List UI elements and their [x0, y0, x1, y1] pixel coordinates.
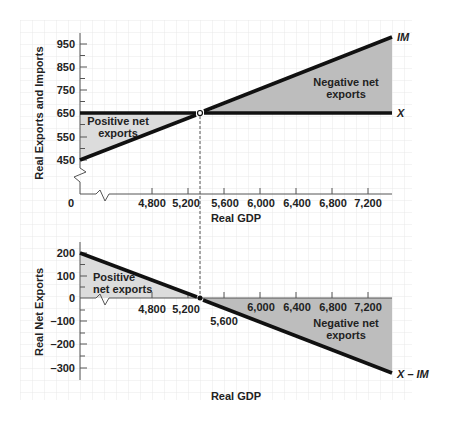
bottom-y-tick-minus200: –200 — [51, 338, 75, 350]
bottom-x-tick-5600: 5,600 — [210, 315, 238, 327]
bottom-y-axis-label: Real Net Exports — [33, 268, 45, 356]
top-x-axis-label: Real GDP — [211, 212, 261, 224]
bottom-x-tick-6400: 6,400 — [283, 301, 311, 313]
zero-crossing-point — [198, 296, 203, 301]
bottom-y-tick-0: 0 — [69, 292, 75, 304]
top-y-tick-450: 450 — [57, 154, 75, 166]
top-x-tick-5200: 5,200 — [172, 197, 200, 209]
top-y-axis-label: Real Exports and Imports — [33, 46, 45, 179]
intersection-point — [198, 111, 203, 116]
im-curve-label: IM — [397, 31, 410, 43]
positive-net-exports-label-line2: exports — [98, 127, 138, 139]
bottom-x-tick-5200: 5,200 — [172, 303, 200, 315]
top-x-tick-6800: 6,800 — [319, 197, 347, 209]
top-x-tick-6400: 6,400 — [283, 197, 311, 209]
x-minus-im-curve-label: X – IM — [396, 368, 430, 380]
top-x-tick-0: 0 — [68, 197, 74, 209]
top-y-tick-550: 550 — [57, 131, 75, 143]
bottom-y-tick-100: 100 — [57, 270, 75, 282]
x-curve-label: X — [396, 107, 405, 119]
bottom-x-tick-7200: 7,200 — [354, 301, 382, 313]
negative-net-exports-label-bottom-line2: exports — [326, 329, 366, 341]
bottom-y-tick-minus100: –100 — [51, 315, 75, 327]
negative-net-exports-label-bottom-line1: Negative net — [313, 317, 379, 329]
top-y-tick-750: 750 — [57, 84, 75, 96]
top-x-tick-6000: 6,000 — [247, 197, 275, 209]
top-y-tick-950: 950 — [57, 38, 75, 50]
positive-net-exports-label-bottom-line1: Positive — [93, 271, 135, 283]
top-y-tick-850: 850 — [57, 61, 75, 73]
bottom-x-axis-label: Real GDP — [211, 390, 261, 402]
top-x-tick-4800: 4,800 — [138, 197, 166, 209]
negative-net-exports-label-line1: Negative net — [313, 76, 379, 88]
top-x-tick-5600: 5,600 — [211, 197, 239, 209]
chart-canvas: 950 850 750 650 550 450 Real Exports and… — [0, 0, 460, 430]
positive-net-exports-label-bottom-line2: net exports — [93, 283, 152, 295]
top-y-tick-650: 650 — [57, 107, 75, 119]
negative-net-exports-label-line2: exports — [326, 88, 366, 100]
bottom-y-tick-200: 200 — [57, 247, 75, 259]
top-x-tick-7200: 7,200 — [354, 197, 382, 209]
bottom-y-tick-minus300: –300 — [51, 362, 75, 374]
bottom-x-tick-6800: 6,800 — [319, 301, 347, 313]
bottom-x-tick-4800: 4,800 — [138, 303, 166, 315]
positive-net-exports-label-line1: Positive net — [87, 115, 149, 127]
bottom-x-tick-6000: 6,000 — [247, 301, 275, 313]
